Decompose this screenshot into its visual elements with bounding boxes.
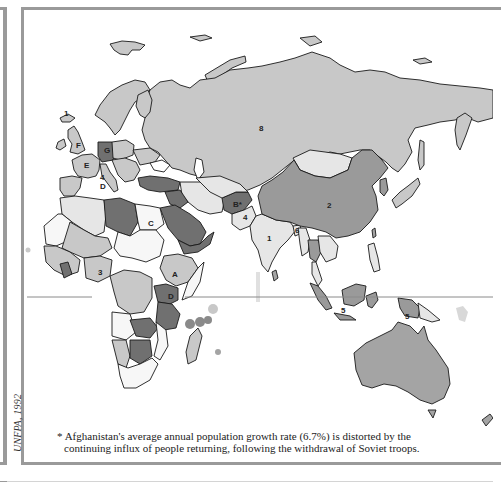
cape-verde — [26, 248, 31, 253]
sulawesi — [366, 292, 378, 308]
borneo — [342, 284, 366, 306]
chad-sudan — [114, 230, 164, 262]
source-credit: UNFPA, 1992 — [12, 394, 23, 452]
footnote-line-1: * Afghanistan's average annual populatio… — [57, 430, 411, 442]
central-africa — [110, 270, 152, 314]
tasmania — [428, 410, 436, 418]
seychelles — [208, 304, 218, 314]
sakhalin — [418, 140, 424, 170]
label-russia: 8 — [259, 124, 264, 133]
label-egypt: C — [148, 219, 154, 228]
franz-josef-land — [190, 35, 212, 41]
new-zealand — [482, 414, 493, 426]
label-germany: G — [104, 146, 110, 155]
label-iceland: 1 — [64, 109, 69, 118]
japan — [392, 178, 420, 208]
label-united-kingdom: F — [76, 141, 81, 150]
poland-eastern-europe — [112, 140, 134, 160]
iberia — [60, 176, 82, 196]
sri-lanka — [272, 270, 278, 281]
saudi-arabia — [160, 205, 206, 246]
taiwan — [372, 228, 376, 238]
footnote-line-2: continuing influx of people returning, f… — [57, 443, 420, 455]
label-kenya: D — [168, 292, 174, 301]
philippines — [368, 243, 380, 272]
namibia — [112, 340, 130, 368]
comoros-c — [204, 316, 212, 324]
mauritius — [215, 349, 221, 355]
ireland — [56, 139, 66, 150]
madagascar — [186, 328, 202, 364]
indochina — [318, 236, 338, 262]
label-papua-new-guinea: 5 — [405, 312, 410, 321]
libya — [104, 198, 138, 236]
severnaya-zemlya — [300, 36, 322, 46]
label-bangladesh: 6 — [295, 226, 300, 235]
zambia — [130, 318, 158, 338]
malay-peninsula — [312, 262, 322, 286]
label-afghanistan: B* — [233, 200, 243, 209]
new-siberian-islands — [413, 58, 432, 64]
label-nigeria: 3 — [98, 268, 103, 277]
uganda-kenya — [154, 284, 178, 304]
turkey — [138, 176, 180, 192]
label-ethiopia: A — [172, 270, 178, 279]
australia — [354, 322, 450, 404]
india — [250, 214, 296, 272]
label-indonesia: 5 — [341, 306, 346, 315]
comoros-a — [185, 319, 195, 329]
footnote: * Afghanistan's average annual populatio… — [57, 431, 420, 454]
balkans — [112, 158, 140, 182]
kamchatka — [455, 113, 472, 150]
comoros-b — [195, 317, 205, 327]
label-italy-d: D — [100, 182, 106, 191]
label-italy-4: 4 — [100, 173, 105, 182]
label-pakistan: 4 — [243, 213, 248, 222]
pacific-islands — [456, 306, 468, 322]
label-india: 1 — [267, 234, 272, 243]
svalbard — [110, 41, 145, 55]
papua-new-guinea — [418, 303, 440, 322]
label-china: 2 — [327, 201, 332, 210]
label-france: E — [84, 161, 90, 170]
korea — [380, 178, 388, 196]
